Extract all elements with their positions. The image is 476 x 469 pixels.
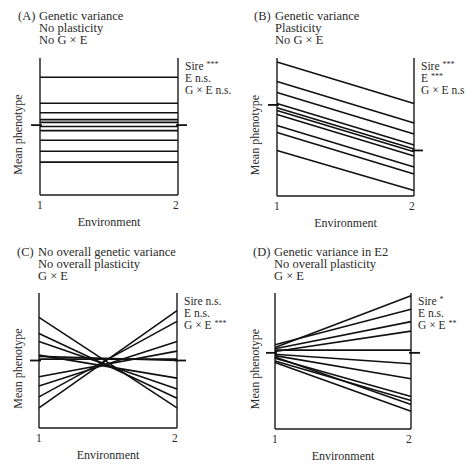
stat-annotation-0: Sire * (418, 295, 443, 307)
stat-annotation-2: G × E n.s (421, 84, 465, 96)
stat-annotation-0: Sire *** (185, 60, 218, 72)
panel-letter: (D) (253, 245, 270, 259)
significance-label: n.s. (428, 307, 444, 319)
reaction-norm-line-sire-3 (275, 322, 411, 349)
stat-annotation-1: E *** (421, 72, 443, 84)
y-axis-label: Mean phenotype (248, 95, 262, 175)
x-tick-label-1: 1 (272, 433, 278, 445)
y-axis-label: Mean phenotype (11, 94, 25, 174)
panel-title-line: G × E (38, 269, 68, 283)
stat-term: Sire (185, 60, 206, 72)
stat-annotation-1: E n.s. (185, 72, 211, 84)
x-tick-label-2: 2 (409, 200, 415, 212)
y-axis-label: Mean phenotype (248, 329, 262, 409)
significance-label: *** (206, 60, 218, 69)
stat-annotation-0: Sire *** (421, 60, 454, 72)
x-axis-label: Environment (312, 449, 375, 463)
reaction-norm-line-sire-1 (277, 62, 414, 103)
x-axis-label: Environment (78, 215, 141, 229)
panel-title-line: G × E (274, 269, 304, 283)
significance-label: *** (214, 319, 226, 328)
x-tick-label-2: 2 (173, 199, 179, 211)
x-tick-label-1: 1 (37, 199, 43, 211)
x-tick-label-1: 1 (274, 200, 280, 212)
significance-label: n.s (451, 84, 465, 96)
panel-letter: (B) (254, 9, 271, 23)
significance-label: n.s. (215, 84, 231, 96)
stat-term: G × E (418, 319, 448, 331)
stat-annotation-2: G × E ** (418, 319, 456, 331)
stat-term: E (418, 307, 428, 319)
stat-annotation-1: E n.s. (418, 307, 444, 319)
stat-term: Sire (421, 60, 442, 72)
significance-label: n.s. (195, 72, 211, 84)
reaction-norm-line-sire-10 (277, 151, 414, 191)
reaction-norm-line-sire-10 (275, 357, 411, 405)
significance-label: *** (431, 72, 443, 81)
stat-term: Sire (418, 295, 439, 307)
stat-annotation-2: G × E n.s. (185, 84, 232, 96)
x-tick-label-1: 1 (36, 432, 42, 444)
stat-annotation-0: Sire n.s. (184, 295, 222, 307)
stat-annotation-1: E n.s. (184, 307, 210, 319)
significance-label: n.s. (194, 307, 210, 319)
reaction-norm-line-sire-7 (277, 115, 414, 156)
panel-title-line: No G × E (39, 33, 88, 47)
panel-title-line: No G × E (275, 33, 324, 47)
significance-label: ** (448, 319, 456, 328)
stat-annotation-2: G × E *** (184, 319, 226, 331)
stat-term: E (185, 72, 195, 84)
panel-letter: (C) (17, 245, 34, 259)
stat-term: Sire (184, 295, 205, 307)
figure-canvas: (A)Genetic varianceNo plasticityNo G × E… (0, 0, 476, 469)
reaction-norm-line-sire-1 (39, 317, 177, 408)
x-axis-label: Environment (314, 216, 377, 230)
panel-letter: (A) (18, 9, 35, 23)
x-tick-label-2: 2 (406, 433, 412, 445)
x-tick-label-2: 2 (172, 432, 178, 444)
stat-term: E (184, 307, 194, 319)
stat-term: G × E (184, 319, 214, 331)
reaction-norm-line-sire-2 (275, 309, 411, 344)
reaction-norm-line-sire-11 (275, 362, 411, 411)
significance-label: * (439, 295, 443, 304)
significance-label: *** (442, 60, 454, 69)
y-axis-label: Mean phenotype (11, 328, 25, 408)
reaction-norm-line-sire-4 (275, 331, 411, 351)
stat-term: G × E (421, 84, 451, 96)
stat-term: E (421, 72, 431, 84)
x-axis-label: Environment (77, 448, 140, 462)
significance-label: n.s. (205, 295, 221, 307)
stat-term: G × E (185, 84, 215, 96)
